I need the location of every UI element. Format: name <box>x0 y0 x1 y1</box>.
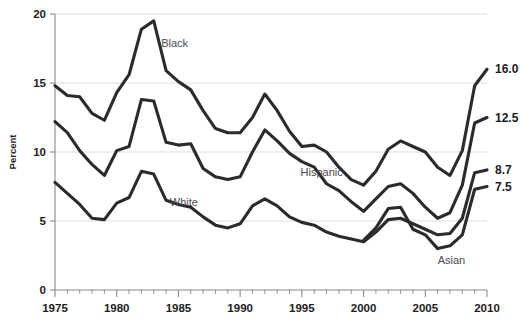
series-group <box>55 21 487 249</box>
line-chart: 0510152019751980198519901995200020052010… <box>0 0 531 330</box>
x-axis-tick-label: 2000 <box>351 302 377 314</box>
labels-group: 0510152019751980198519901995200020052010… <box>7 8 519 314</box>
x-axis-tick-label: 1995 <box>289 302 315 314</box>
x-axis-tick-label: 2005 <box>412 302 438 314</box>
y-axis-title: Percent <box>7 134 18 170</box>
x-axis-tick-label: 2010 <box>474 302 500 314</box>
y-axis-tick-label: 15 <box>33 77 46 89</box>
end-value-label-white: 8.7 <box>495 163 512 177</box>
y-axis-tick-label: 10 <box>33 146 46 158</box>
x-axis-tick-label: 1975 <box>42 302 68 314</box>
x-axis-tick-label: 1990 <box>227 302 253 314</box>
x-axis-tick-label: 1980 <box>104 302 130 314</box>
series-annotation-black: Black <box>161 37 188 49</box>
gridlines-group <box>55 14 487 221</box>
end-value-label-hispanic: 12.5 <box>495 111 519 125</box>
y-axis-tick-label: 20 <box>33 8 46 20</box>
series-annotation-hispanic: Hispanic <box>301 166 344 178</box>
series-line-black <box>55 21 487 185</box>
series-annotation-asian: Asian <box>438 254 466 266</box>
x-axis-tick-label: 1985 <box>166 302 192 314</box>
chart-container: 0510152019751980198519901995200020052010… <box>0 0 531 330</box>
end-value-label-asian: 7.5 <box>495 180 512 194</box>
y-axis-tick-label: 5 <box>40 215 47 227</box>
end-value-label-black: 16.0 <box>495 62 519 76</box>
series-annotation-white: White <box>170 196 198 208</box>
y-axis-tick-label: 0 <box>40 284 46 296</box>
